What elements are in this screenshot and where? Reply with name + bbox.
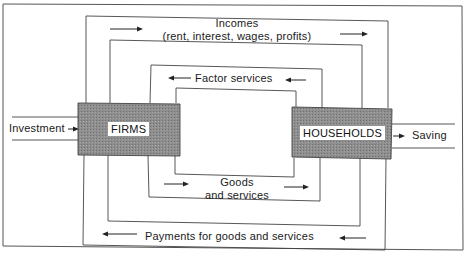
incomes-title: Incomes [152, 17, 322, 30]
goods-label: Goods and services [190, 176, 284, 202]
investment-arrow-icon [68, 127, 79, 132]
arrow-right-icon [340, 32, 368, 37]
arrow-left-icon [339, 236, 366, 241]
goods-inner-line [175, 155, 294, 177]
arrow-right-icon [284, 185, 309, 190]
factor-services-inner-line [176, 88, 296, 108]
investment-label: Investment [9, 122, 65, 134]
saving-arrow-icon [393, 134, 405, 139]
arrow-right-icon [164, 182, 189, 187]
factor-services-label: Factor services [195, 72, 273, 84]
arrow-left-icon [102, 232, 137, 237]
goods-title: Goods [190, 176, 284, 189]
goods-subtitle: and services [190, 189, 284, 202]
payments-label: Payments for goods and services [145, 230, 314, 242]
incomes-label: Incomes (rent, interest, wages, profits) [152, 17, 322, 43]
firms-label: FIRMS [108, 122, 149, 136]
incomes-subtitle: (rent, interest, wages, profits) [152, 30, 322, 43]
households-label: HOUSEHOLDS [300, 126, 385, 140]
arrow-right-icon [110, 27, 143, 32]
saving-label: Saving [412, 129, 447, 141]
arrow-left-icon [285, 78, 306, 83]
arrow-left-icon [168, 76, 191, 81]
